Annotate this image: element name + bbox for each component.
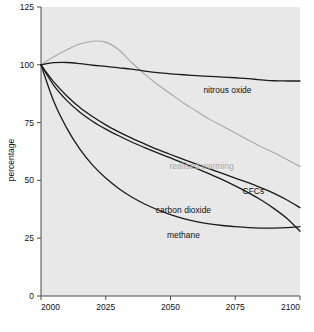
plot-area-background (41, 7, 300, 296)
x-tick-label: 2100 (281, 302, 300, 312)
label-carbon-dioxide: carbon dioxide (156, 205, 212, 215)
label-nitrous-oxide: nitrous oxide (203, 85, 251, 95)
label-CFCs: CFCs (243, 186, 265, 196)
chart-figure: 0255075100125 20002025205020752100 reali… (0, 0, 314, 332)
y-tick-label: 25 (25, 233, 35, 243)
label-methane: methane (167, 230, 200, 240)
y-tick-label: 100 (20, 60, 34, 70)
x-tick-label: 2050 (161, 302, 180, 312)
y-axis-title: percentage (6, 138, 16, 181)
y-tick-label: 75 (25, 118, 35, 128)
y-axis-ticks: 0255075100125 (20, 2, 41, 301)
label-realised-warming: realised warming (169, 161, 234, 171)
x-tick-label: 2025 (96, 302, 115, 312)
x-tick-label: 2000 (41, 302, 60, 312)
x-axis-ticks: 20002025205020752100 (41, 296, 300, 312)
y-tick-label: 0 (29, 291, 34, 301)
line-chart-svg: 0255075100125 20002025205020752100 reali… (0, 0, 314, 332)
y-tick-label: 125 (20, 2, 34, 12)
x-tick-label: 2075 (226, 302, 245, 312)
y-tick-label: 50 (25, 175, 35, 185)
